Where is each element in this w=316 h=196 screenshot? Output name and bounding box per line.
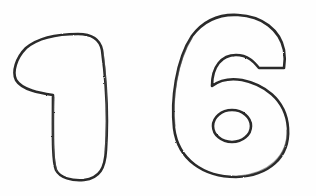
sketch-canvas: 16 — [0, 0, 316, 196]
sketch-drawing — [0, 0, 316, 196]
digit-one — [14, 34, 106, 180]
digit-six — [173, 15, 288, 177]
digit-six-hole — [213, 110, 251, 142]
